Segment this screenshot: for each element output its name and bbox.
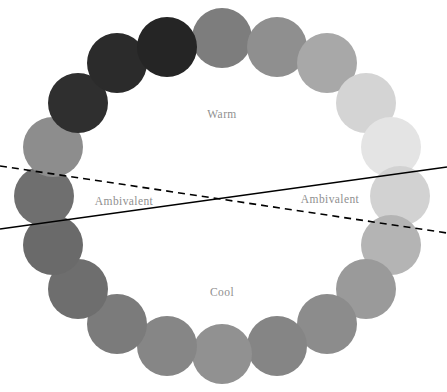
region-label-ambivalent-left: Ambivalent xyxy=(95,195,153,207)
region-label-cool: Cool xyxy=(210,286,234,298)
wheel-canvas xyxy=(0,0,447,392)
ring-node-node-01 xyxy=(192,8,252,68)
color-wheel-figure: Warm Cool Ambivalent Ambivalent xyxy=(0,0,447,392)
ring-node-node-20 xyxy=(137,17,197,77)
region-label-warm: Warm xyxy=(207,108,236,120)
region-label-ambivalent-right: Ambivalent xyxy=(301,193,359,205)
ring-node-node-11 xyxy=(192,324,252,384)
ring-node-node-10 xyxy=(247,316,307,376)
ring-nodes-group xyxy=(14,8,430,384)
